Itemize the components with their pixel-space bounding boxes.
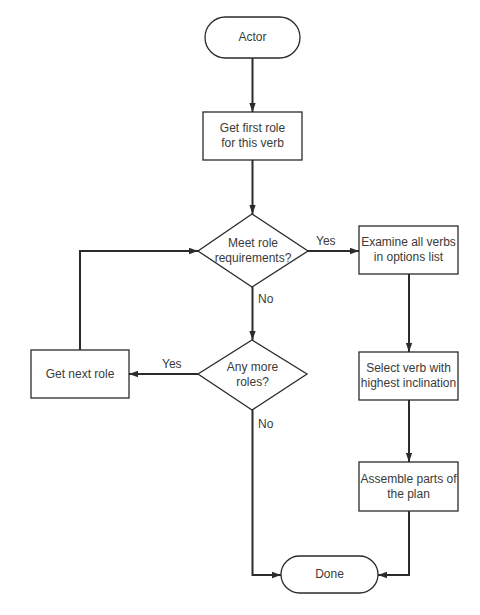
done-terminal: [281, 556, 378, 593]
get-first-role-box: [203, 112, 302, 160]
flowchart-canvas: [0, 0, 480, 615]
examine-verbs-box: [359, 226, 458, 274]
get-next-role-box: [31, 350, 129, 398]
actor-terminal: [205, 17, 300, 58]
select-verb-box: [359, 352, 458, 400]
meet-yes-label: Yes: [316, 234, 336, 248]
more-yes-label: Yes: [162, 357, 182, 371]
edge-more-no-to-done: [253, 410, 282, 575]
meet-no-label: No: [258, 292, 273, 306]
edge-assemble-to-done: [378, 511, 409, 575]
edge-next-role-to-meet: [80, 251, 198, 350]
assemble-plan-box: [359, 462, 458, 511]
meet-requirements-diamond: [198, 214, 308, 287]
any-more-roles-diamond: [198, 340, 307, 410]
more-no-label: No: [258, 417, 273, 431]
